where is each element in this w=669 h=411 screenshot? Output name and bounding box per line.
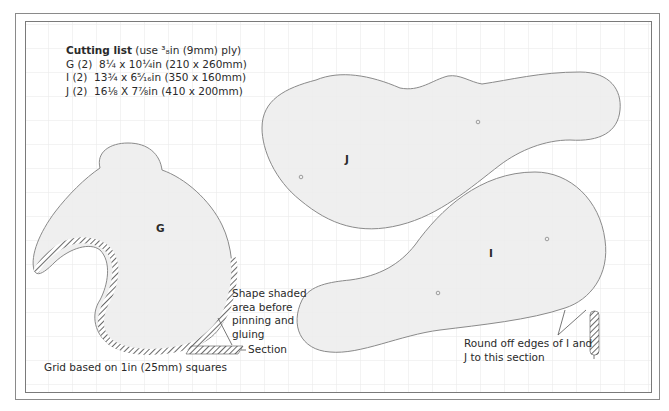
- piece-dims: 8¼ x 10¼in (210 x 260mm): [99, 58, 247, 70]
- piece-qty: (2): [72, 85, 87, 97]
- piece-id: I: [66, 71, 69, 83]
- piece-dims: 13¾ x 6⁵⁄₁₆in (350 x 160mm): [94, 71, 246, 83]
- note-line: Shape shaded: [232, 287, 307, 301]
- piece-id: G: [66, 58, 74, 70]
- cutting-list: Cutting list (use ³₈in (9mm) ply) G (2) …: [66, 44, 247, 98]
- cutting-list-row-g: G (2) 8¼ x 10¼in (210 x 260mm): [66, 58, 247, 72]
- piece-qty: (2): [77, 58, 92, 70]
- cutting-list-title: Cutting list: [66, 44, 132, 56]
- piece-g-label: G: [156, 222, 165, 234]
- shape-shaded-note: Shape shaded area before pinning and glu…: [232, 287, 307, 341]
- note-line: area before: [232, 301, 307, 315]
- note-line: pinning and: [232, 314, 307, 328]
- piece-i-label: I: [489, 247, 493, 259]
- cutting-list-row-i: I (2) 13¾ x 6⁵⁄₁₆in (350 x 160mm): [66, 71, 247, 85]
- grid-note: Grid based on 1in (25mm) squares: [44, 361, 227, 375]
- note-line: Round off edges of I and: [464, 337, 592, 351]
- piece-id: J: [66, 85, 69, 97]
- note-line: J to this section: [464, 351, 592, 365]
- section-label: Section: [248, 343, 287, 357]
- piece-j-label: J: [345, 153, 349, 165]
- piece-qty: (2): [72, 71, 87, 83]
- cutting-list-row-j: J (2) 16⅛ X 7⅞in (410 x 200mm): [66, 85, 247, 99]
- section-hatched-bar: [186, 346, 243, 354]
- piece-dims: 16⅛ X 7⅞in (410 x 200mm): [94, 85, 243, 97]
- cutting-list-subtitle: (use ³₈in (9mm) ply): [135, 44, 241, 56]
- round-off-note: Round off edges of I and J to this secti…: [464, 337, 592, 364]
- note-line: gluing: [232, 328, 307, 342]
- cutting-list-header: Cutting list (use ³₈in (9mm) ply): [66, 44, 247, 58]
